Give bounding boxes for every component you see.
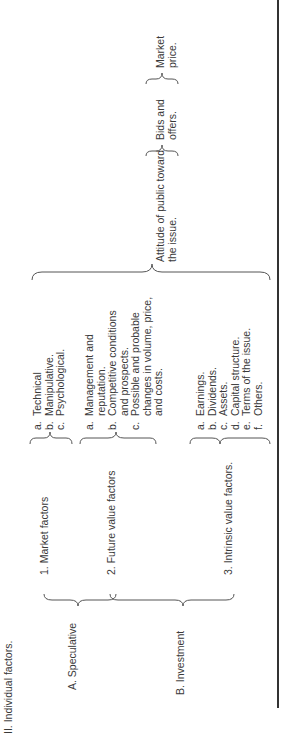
brace-market-price [146, 73, 178, 84]
brace-connectors [0, 0, 289, 740]
brace-attitude [32, 264, 270, 280]
brace-future-items [80, 432, 156, 444]
brace-speculative [44, 594, 116, 606]
brace-bids [146, 145, 178, 156]
brace-investment [110, 594, 234, 606]
brace-market-items [30, 432, 72, 444]
bottom-rule [277, 0, 279, 708]
brace-intrinsic-items [190, 438, 270, 444]
rotated-factors-diagram-page: II. Individual factors. A. Speculative B… [0, 0, 289, 740]
